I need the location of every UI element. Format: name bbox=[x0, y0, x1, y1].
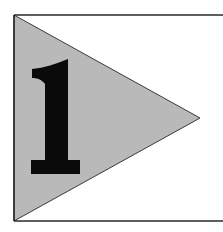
pennant-graphic bbox=[0, 0, 223, 232]
numeral-pennant-flag: 1 bbox=[0, 0, 223, 232]
